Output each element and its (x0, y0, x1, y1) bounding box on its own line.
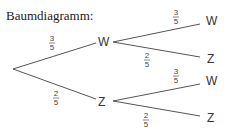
svg-text:5: 5 (50, 43, 55, 52)
node-level2-ww: W (206, 14, 218, 28)
prob-w-w: 3 5 (173, 8, 179, 26)
svg-text:2: 2 (144, 111, 149, 120)
node-level2-zw: W (206, 74, 218, 88)
branch-w-to-z (113, 42, 200, 57)
prob-root-w: 3 5 (49, 34, 55, 52)
svg-text:2: 2 (145, 51, 150, 60)
node-level2-wz: Z (207, 52, 214, 66)
node-level1-z: Z (98, 95, 105, 109)
svg-text:3: 3 (174, 67, 179, 76)
prob-z-w: 3 5 (173, 67, 179, 85)
tree-diagram: W Z W Z W Z 3 5 2 5 3 5 2 5 3 5 2 5 (0, 0, 231, 137)
branch-z-to-w (113, 84, 200, 101)
svg-text:5: 5 (145, 60, 150, 69)
svg-text:5: 5 (54, 98, 59, 107)
svg-text:5: 5 (144, 120, 149, 129)
prob-w-z: 2 5 (144, 51, 150, 69)
svg-text:3: 3 (50, 34, 55, 43)
node-level1-w: W (98, 35, 110, 49)
svg-text:2: 2 (54, 89, 59, 98)
prob-z-z: 2 5 (143, 111, 149, 129)
branch-w-to-w (113, 24, 200, 42)
svg-text:5: 5 (174, 76, 179, 85)
branch-z-to-z (113, 101, 200, 116)
branch-root-to-w (13, 43, 96, 69)
svg-text:5: 5 (174, 17, 179, 26)
node-level2-zz: Z (207, 111, 214, 125)
svg-text:3: 3 (174, 8, 179, 17)
prob-root-z: 2 5 (53, 89, 59, 107)
